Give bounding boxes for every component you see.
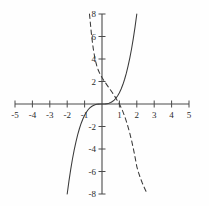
y-tick-label: 8	[92, 9, 97, 19]
x-tick-label: -5	[11, 110, 19, 120]
x-tick-label: -4	[29, 110, 37, 120]
y-tick-label: -2	[89, 122, 97, 132]
x-tick-label: -2	[63, 110, 71, 120]
x-tick-label: 5	[187, 110, 192, 120]
graph-figure: -5-4-3-2-1123458642-2-4-6-8	[0, 0, 209, 206]
y-tick-label: -4	[89, 144, 97, 154]
x-tick-label: -3	[46, 110, 54, 120]
x-tick-label: 4	[169, 110, 174, 120]
y-tick-label: -8	[89, 189, 97, 199]
x-tick-label: 3	[152, 110, 157, 120]
y-tick-label: -6	[89, 167, 97, 177]
cartesian-plot: -5-4-3-2-1123458642-2-4-6-8	[0, 0, 209, 206]
x-tick-label: 2	[135, 110, 140, 120]
x-tick-label: 1	[117, 110, 122, 120]
y-tick-label: 2	[92, 77, 97, 87]
